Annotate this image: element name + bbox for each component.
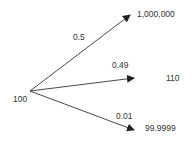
branch-outcome-lower: 99.9999: [145, 124, 176, 133]
branch-arrow-middle: [30, 78, 134, 91]
branch-probability-upper: 0.5: [73, 33, 85, 42]
branch-outcome-upper: 1,000,000: [137, 10, 175, 19]
branch-probability-lower: 0.01: [116, 112, 133, 121]
root-value-label: 100: [13, 95, 27, 104]
branch-arrow-upper: [30, 15, 130, 91]
branch-outcome-middle: 110: [166, 74, 180, 83]
branch-probability-middle: 0.49: [112, 61, 129, 70]
probability-tree-diagram: 100 0.5 1,000,000 0.49 110 0.01 99.9999: [0, 0, 193, 147]
